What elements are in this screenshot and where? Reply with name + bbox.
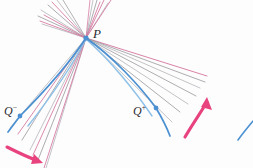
label-Q-plus: Q+ (133, 104, 146, 117)
corner-curve-fragment (238, 121, 253, 140)
label-P: P (93, 27, 101, 40)
ray-fan-upper-left (38, 0, 86, 38)
point-P-dot (83, 35, 88, 40)
ray-line (44, 38, 86, 168)
ray-diagram-svg (0, 0, 253, 168)
label-P-text: P (93, 26, 101, 41)
figure-canvas: P Q− Q+ (0, 0, 253, 168)
motion-arrow-bottomleft-shaft (7, 147, 36, 160)
label-Q-plus-sup: + (142, 103, 146, 112)
ray-line (38, 38, 86, 160)
right-caustic-main (86, 38, 170, 136)
label-Q-plus-base: Q (133, 104, 142, 118)
ray-fan-right (86, 38, 207, 122)
point-Q-plus-dot (154, 106, 159, 111)
ray-line (48, 5, 86, 38)
ray-line (22, 38, 86, 140)
motion-arrows (7, 97, 212, 164)
point-Q-minus-dot (18, 114, 23, 119)
label-Q-minus-sup: − (13, 103, 17, 112)
label-Q-minus-base: Q (4, 104, 13, 118)
ray-line (38, 16, 86, 38)
ray-line (86, 38, 200, 88)
caustic-curves (8, 38, 253, 140)
ray-line (86, 38, 205, 82)
ray-line (63, 0, 86, 38)
motion-arrow-bottomleft-head (31, 154, 43, 164)
ray-fan-lower-left (10, 38, 86, 168)
label-Q-minus: Q− (4, 104, 17, 117)
ray-line (33, 38, 86, 155)
